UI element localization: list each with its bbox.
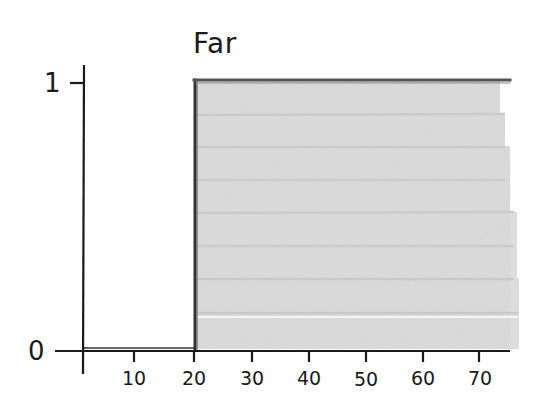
x-tick-label-10: 10 (122, 367, 146, 389)
x-tick-label-40: 40 (297, 367, 321, 389)
chart-canvas: Far (0, 0, 546, 402)
x-tick-label-30: 30 (240, 367, 264, 389)
chart-title: Far (193, 27, 237, 60)
y-tick-label-0: 0 (28, 336, 45, 366)
x-tick-label-20: 20 (182, 367, 206, 389)
y-axis (70, 65, 84, 374)
x-tick-label-50: 50 (354, 368, 378, 390)
x-tick-labels: 10 20 30 40 50 60 70 (122, 367, 492, 390)
x-tick-label-60: 60 (411, 367, 435, 389)
step-chart: Far (0, 0, 546, 402)
x-tick-label-70: 70 (468, 367, 492, 389)
filled-area (194, 80, 519, 349)
x-axis (55, 351, 510, 362)
y-tick-label-1: 1 (44, 68, 61, 98)
